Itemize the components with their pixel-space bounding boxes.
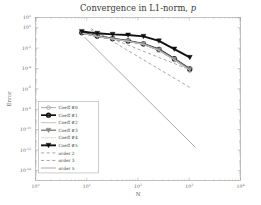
x-tick-exponent: 0 <box>37 183 39 187</box>
series-line-0 <box>82 33 190 70</box>
x-tick-label: 100 <box>32 183 40 189</box>
chart-title-italic: p <box>191 3 197 13</box>
figure-canvas: 10010110210310410110010-210-410-610-810-… <box>0 0 261 205</box>
legend-label-7: order 3 <box>59 158 75 163</box>
x-tick-exponent: 4 <box>242 183 244 187</box>
y-tick-label: 10-10 <box>20 126 31 132</box>
chart-title-main: Convergence in L1-norm, <box>80 3 191 13</box>
y-tick-label: 10-8 <box>22 106 31 112</box>
legend-label-2: Coeff #2 <box>59 120 78 125</box>
y-axis-label: Error <box>6 91 12 106</box>
y-tick-exponent: -10 <box>26 126 31 130</box>
x-tick-label: 102 <box>134 183 142 189</box>
legend-label-1: Coeff #1 <box>59 113 78 118</box>
y-tick-exponent: 0 <box>29 24 31 28</box>
y-tick-exponent: -4 <box>28 65 31 69</box>
y-tick-label: 10-12 <box>20 147 31 153</box>
x-axis-label: N <box>136 191 141 197</box>
y-tick-label: 101 <box>23 14 31 20</box>
y-tick-label: 10-2 <box>22 45 31 51</box>
legend-label-8: order 5 <box>59 166 75 171</box>
x-tick-exponent: 1 <box>89 183 91 187</box>
y-tick-exponent: -12 <box>26 147 31 151</box>
y-tick-exponent: -6 <box>28 85 31 89</box>
y-tick-exponent: -8 <box>28 106 31 110</box>
x-tick-label: 103 <box>185 183 193 189</box>
reference-line-order-5 <box>84 37 195 147</box>
chart-title: Convergence in L1-norm, p <box>80 3 197 13</box>
y-tick-label: 10-4 <box>22 65 31 71</box>
y-tick-label: 10-14 <box>20 167 31 173</box>
x-tick-label: 101 <box>83 183 91 189</box>
y-tick-exponent: 1 <box>29 14 31 18</box>
legend-label-3: Coeff #3 <box>59 128 78 133</box>
y-tick-label: 100 <box>23 24 31 30</box>
legend-label-0: Coeff #0 <box>59 105 78 110</box>
y-tick-exponent: -2 <box>28 45 31 49</box>
legend-label-5: Coeff #5 <box>59 143 78 148</box>
y-tick-exponent: -14 <box>26 167 31 171</box>
legend-label-6: order 2 <box>59 151 75 156</box>
legend-label-4: Coeff #4 <box>59 135 78 140</box>
x-tick-exponent: 2 <box>140 183 142 187</box>
x-tick-label: 104 <box>237 183 245 189</box>
x-tick-exponent: 3 <box>191 183 193 187</box>
y-tick-label: 10-6 <box>22 85 31 91</box>
